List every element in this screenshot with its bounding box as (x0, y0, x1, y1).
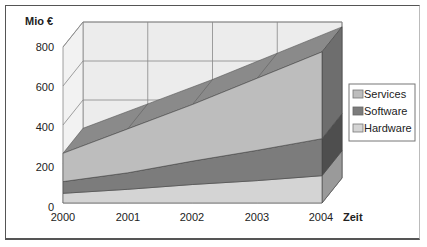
x-tick-2002: 2002 (180, 211, 204, 223)
legend: Services Software Hardware (349, 84, 415, 141)
x-tick-2000: 2000 (51, 211, 75, 223)
x-axis-title: Zeit (343, 211, 363, 223)
legend-swatch-hardware (353, 124, 363, 132)
y-axis-title: Mio € (25, 15, 53, 27)
area-chart-3d: Mio € 800 600 400 200 0 2000 2001 2002 2… (0, 0, 427, 247)
y-tick-200: 200 (36, 161, 54, 173)
x-tick-2003: 2003 (245, 211, 269, 223)
legend-label-hardware: Hardware (364, 122, 412, 134)
legend-label-software: Software (364, 105, 407, 117)
legend-swatch-software (353, 107, 363, 115)
y-tick-600: 600 (36, 81, 54, 93)
legend-swatch-services (353, 90, 363, 98)
x-tick-2001: 2001 (116, 211, 140, 223)
legend-label-services: Services (364, 88, 407, 100)
y-tick-800: 800 (36, 41, 54, 53)
x-tick-2004: 2004 (309, 211, 333, 223)
y-tick-400: 400 (36, 121, 54, 133)
